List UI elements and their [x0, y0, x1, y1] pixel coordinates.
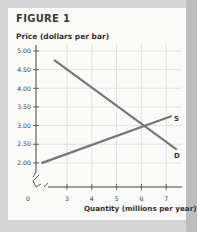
demand-label: D	[174, 152, 180, 160]
axes	[33, 45, 182, 190]
svg-text:7: 7	[164, 195, 168, 202]
svg-text:5: 5	[115, 195, 119, 202]
series-lines	[42, 60, 176, 163]
svg-text:6: 6	[139, 195, 143, 202]
svg-text:2.50: 2.50	[17, 140, 31, 147]
svg-text:2.00: 2.00	[17, 159, 31, 166]
svg-text:3.50: 3.50	[17, 103, 31, 110]
svg-text:4.50: 4.50	[17, 66, 31, 73]
svg-text:4.00: 4.00	[17, 85, 31, 92]
svg-text:5.00: 5.00	[17, 47, 31, 54]
svg-text:4: 4	[90, 195, 94, 202]
svg-text:3: 3	[65, 195, 69, 202]
grid-lines	[36, 44, 182, 187]
chart-plot: 5.004.504.003.503.002.502.00034567 S D	[0, 0, 197, 232]
svg-text:0: 0	[26, 195, 30, 202]
x-axis-title: Quantity (millions per year)	[84, 204, 197, 213]
svg-text:3.00: 3.00	[17, 122, 31, 129]
supply-label: S	[174, 115, 179, 123]
